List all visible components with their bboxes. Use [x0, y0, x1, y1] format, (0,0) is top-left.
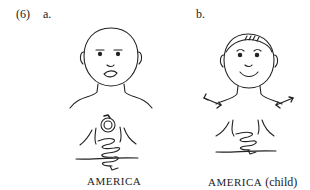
caption-a-sign: AMERICA	[87, 175, 141, 187]
caption-b: AMERICA (child)	[208, 175, 297, 190]
figure-b-signer	[204, 34, 293, 154]
caption-a: AMERICA	[87, 175, 141, 187]
eye-icon	[116, 52, 119, 55]
hair	[226, 40, 272, 53]
eye-icon	[255, 53, 258, 56]
eye-icon	[238, 53, 241, 56]
head-b	[224, 34, 274, 88]
caption-b-note: (child)	[265, 175, 297, 189]
figure-a-signer	[70, 28, 152, 170]
circular-motion-icon	[101, 115, 115, 132]
double-arrow-icon	[204, 94, 293, 108]
eye-icon	[98, 52, 101, 55]
caption-b-sign: AMERICA	[208, 176, 262, 188]
